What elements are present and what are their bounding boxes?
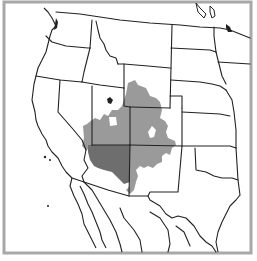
map-figure	[0, 0, 257, 261]
channel-island	[49, 159, 51, 161]
guadalupe-island	[47, 205, 49, 207]
unshaded-hole	[109, 117, 117, 126]
channel-island	[44, 156, 46, 158]
